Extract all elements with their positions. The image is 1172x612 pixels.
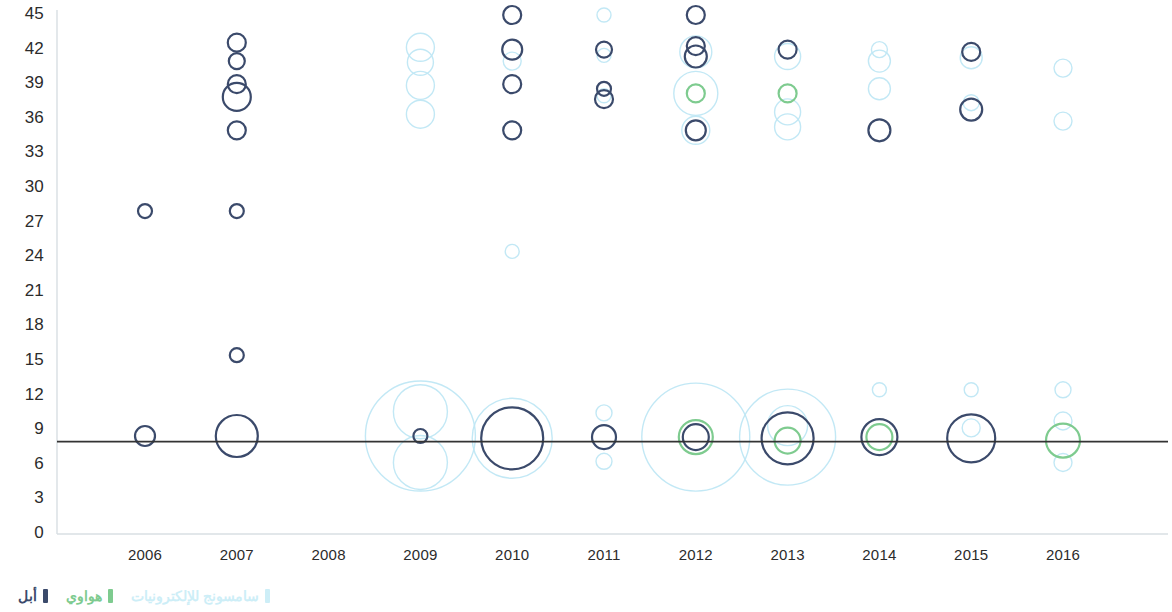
bubble[interactable] (775, 114, 801, 140)
bubble[interactable] (868, 50, 890, 72)
bubble[interactable] (216, 415, 258, 457)
y-axis-tick-45: 45 (0, 4, 44, 24)
bubble[interactable] (596, 42, 612, 58)
bubble[interactable] (503, 6, 521, 24)
y-axis-tick-3: 3 (0, 488, 44, 508)
bubble[interactable] (481, 407, 543, 469)
y-axis-tick-6: 6 (0, 454, 44, 474)
bubble[interactable] (947, 414, 995, 462)
bubble[interactable] (642, 383, 750, 491)
bubble[interactable] (762, 412, 814, 464)
bubble[interactable] (674, 71, 718, 115)
x-axis-tick-2009: 2009 (380, 546, 460, 563)
y-axis-tick-12: 12 (0, 385, 44, 405)
series-سامسونج للإلكترونيات (365, 8, 1072, 491)
y-axis-tick-36: 36 (0, 108, 44, 128)
legend-label: أبل (18, 588, 37, 604)
x-axis-tick-2011: 2011 (564, 546, 644, 563)
x-axis-tick-2010: 2010 (472, 546, 552, 563)
legend-item-samsung-electronics[interactable]: سامسونج للإلكترونيات (131, 588, 270, 604)
bubble[interactable] (683, 424, 709, 450)
bubble[interactable] (960, 99, 982, 121)
bubble[interactable] (868, 78, 890, 100)
bubble[interactable] (229, 53, 245, 69)
x-axis-tick-2012: 2012 (656, 546, 736, 563)
bubble[interactable] (393, 385, 447, 439)
y-axis-tick-15: 15 (0, 350, 44, 370)
series-layer (135, 6, 1080, 491)
bubble[interactable] (1054, 59, 1072, 77)
bubble[interactable] (779, 84, 797, 102)
bubble[interactable] (592, 425, 616, 449)
bubble[interactable] (1054, 112, 1072, 130)
bubble[interactable] (502, 40, 522, 60)
bubble[interactable] (866, 424, 892, 450)
bubble[interactable] (406, 100, 434, 128)
bubble[interactable] (964, 383, 978, 397)
x-axis-tick-2016: 2016 (1023, 546, 1103, 563)
y-axis-tick-30: 30 (0, 177, 44, 197)
y-axis-tick-33: 33 (0, 142, 44, 162)
y-axis-tick-0: 0 (0, 523, 44, 543)
legend-label: هواوي (66, 588, 102, 604)
bubble[interactable] (1046, 424, 1080, 458)
y-axis-tick-18: 18 (0, 315, 44, 335)
x-axis-tick-2014: 2014 (839, 546, 919, 563)
x-axis-tick-2006: 2006 (105, 546, 185, 563)
bubble[interactable] (135, 426, 155, 446)
bubble[interactable] (406, 33, 434, 61)
legend-item-huawei[interactable]: هواوي (66, 588, 113, 604)
bubble[interactable] (597, 8, 611, 22)
bubble[interactable] (962, 419, 980, 437)
bubble[interactable] (740, 389, 836, 485)
bubble[interactable] (503, 75, 521, 93)
bubble[interactable] (472, 398, 552, 478)
bubble-chart: 4542393633302724211815129630 20062007200… (0, 0, 1172, 612)
y-axis-tick-27: 27 (0, 212, 44, 232)
bubble[interactable] (872, 383, 886, 397)
y-axis-tick-39: 39 (0, 73, 44, 93)
legend-item-apple[interactable]: أبل (18, 588, 48, 604)
bubble[interactable] (963, 95, 979, 111)
chart-legend: أبلهواويسامسونج للإلكترونيات (0, 583, 1172, 609)
legend-swatch-icon (108, 589, 113, 603)
axis-layer (57, 10, 1168, 534)
x-axis-tick-2013: 2013 (748, 546, 828, 563)
bubble[interactable] (228, 121, 246, 139)
plot-area (0, 0, 1172, 612)
bubble[interactable] (505, 244, 519, 258)
bubble[interactable] (596, 405, 612, 421)
bubble[interactable] (230, 348, 244, 362)
y-axis-tick-24: 24 (0, 246, 44, 266)
y-axis-tick-42: 42 (0, 39, 44, 59)
y-axis-tick-9: 9 (0, 419, 44, 439)
bubble[interactable] (596, 453, 612, 469)
x-axis-tick-2008: 2008 (289, 546, 369, 563)
bubble[interactable] (775, 428, 801, 454)
bubble[interactable] (503, 52, 521, 70)
legend-swatch-icon (265, 589, 270, 603)
bubble[interactable] (687, 84, 705, 102)
bubble[interactable] (223, 83, 251, 111)
bubble[interactable] (868, 119, 890, 141)
bubble[interactable] (685, 46, 707, 68)
bubble[interactable] (962, 43, 980, 61)
bubble[interactable] (686, 120, 706, 140)
bubble[interactable] (680, 36, 712, 68)
y-axis-tick-21: 21 (0, 281, 44, 301)
x-axis-tick-2015: 2015 (931, 546, 1011, 563)
bubble[interactable] (503, 121, 521, 139)
series-أبل (135, 6, 995, 469)
x-axis-tick-2007: 2007 (197, 546, 277, 563)
bubble[interactable] (1054, 412, 1072, 430)
bubble[interactable] (1055, 382, 1071, 398)
legend-swatch-icon (43, 589, 48, 603)
bubble[interactable] (138, 204, 152, 218)
bubble[interactable] (230, 204, 244, 218)
bubble[interactable] (228, 34, 246, 52)
bubble[interactable] (687, 6, 705, 24)
legend-label: سامسونج للإلكترونيات (131, 588, 259, 604)
